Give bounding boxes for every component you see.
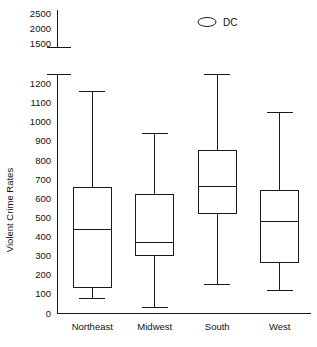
upper-axis-tick-labels: 150020002500	[30, 8, 51, 50]
legend-label-dc: DC	[223, 17, 237, 28]
iqr-box	[198, 150, 236, 213]
box-plot-northeast	[73, 91, 111, 298]
lower-tick-label: 300	[35, 250, 51, 261]
lower-tick-label: 1200	[30, 78, 51, 89]
category-label-south: South	[205, 321, 230, 332]
lower-tick-label: 400	[35, 231, 51, 242]
lower-axis-group: 0100200300400500600700800900100011001200	[30, 74, 57, 319]
y-axis-title: Violent Crime Rates	[4, 168, 15, 253]
category-label-west: West	[269, 321, 291, 332]
category-axis-labels: NortheastMidwestSouthWest	[72, 321, 291, 332]
lower-axis-tick-labels: 0100200300400500600700800900100011001200	[30, 78, 51, 318]
lower-tick-label: 500	[35, 212, 51, 223]
axis-break-marks	[47, 47, 71, 74]
lower-tick-label: 200	[35, 269, 51, 280]
iqr-box	[261, 190, 299, 262]
upper-tick-label: 2000	[30, 23, 51, 34]
lower-tick-label: 0	[46, 308, 51, 319]
lower-tick-label: 800	[35, 155, 51, 166]
dc-outlier-marker-icon	[198, 18, 216, 27]
category-label-midwest: Midwest	[137, 321, 172, 332]
y-axis-title-text: Violent Crime Rates	[4, 168, 15, 253]
lower-tick-label: 700	[35, 174, 51, 185]
lower-tick-label: 1100	[31, 97, 51, 108]
lower-tick-label: 100	[35, 288, 51, 299]
box-plot-midwest	[136, 133, 174, 308]
iqr-box	[73, 188, 111, 287]
lower-tick-label: 1000	[30, 116, 51, 127]
box-plots-layer	[73, 74, 299, 307]
chart-canvas: 150020002500 010020030040050060070080090…	[0, 0, 317, 347]
box-plot-west	[261, 112, 299, 290]
chart-legend: DC	[198, 17, 237, 28]
box-plot-chart: 150020002500 010020030040050060070080090…	[0, 0, 317, 347]
upper-tick-label: 1500	[30, 38, 51, 49]
lower-tick-label: 600	[35, 193, 51, 204]
box-plot-south	[198, 74, 236, 284]
upper-tick-label: 2500	[30, 8, 51, 19]
axis-break-group	[47, 47, 71, 74]
lower-tick-label: 900	[35, 135, 51, 146]
iqr-box	[136, 194, 174, 255]
upper-axis-group: 150020002500	[30, 8, 57, 50]
category-label-northeast: Northeast	[72, 321, 114, 332]
